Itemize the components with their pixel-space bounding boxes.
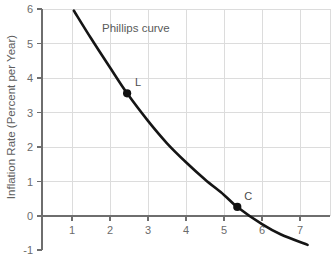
y-tick-marks [37,9,42,250]
xtick-label-5: 5 [221,224,227,236]
phillips-curve-chart: 6 5 4 3 2 1 0 -1 1 2 3 4 5 6 7 Inflation… [0,0,335,262]
ytick-label-2: 2 [27,141,33,153]
xtick-label-1: 1 [69,224,75,236]
data-point-C[interactable] [233,203,241,211]
ytick-label-4: 4 [27,72,33,84]
ytick-label-3: 3 [27,107,33,119]
curve-annotation-label: Phillips curve [102,22,170,34]
xtick-label-3: 3 [145,224,151,236]
ytick-label-6: 6 [27,3,33,15]
ytick-label-0: 0 [27,210,33,222]
ytick-label-minus-1: -1 [23,244,33,256]
data-point-label-L: L [135,76,141,88]
x-tick-marks [72,216,300,221]
y-axis-title: Inflation Rate (Percent per Year) [5,35,17,199]
chart-svg: 6 5 4 3 2 1 0 -1 1 2 3 4 5 6 7 Inflation… [0,0,335,262]
data-point-label-C: C [244,190,252,202]
y-tick-labels: 6 5 4 3 2 1 0 -1 [23,3,33,256]
ytick-label-5: 5 [27,38,33,50]
data-point-L[interactable] [123,89,131,97]
xtick-label-2: 2 [107,224,113,236]
x-tick-labels: 1 2 3 4 5 6 7 [69,224,303,236]
ytick-label-1: 1 [27,176,33,188]
xtick-label-4: 4 [183,224,189,236]
xtick-label-7: 7 [297,224,303,236]
